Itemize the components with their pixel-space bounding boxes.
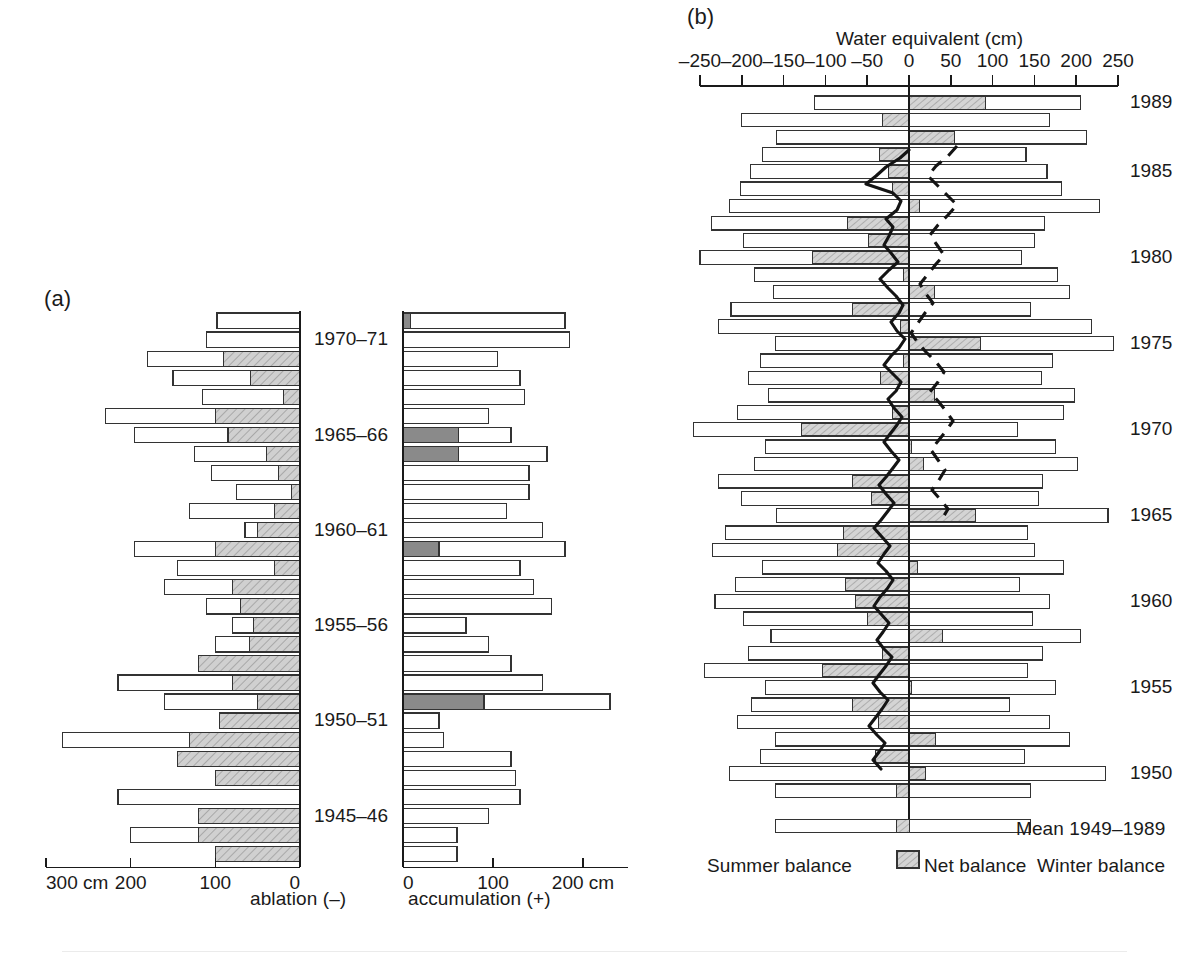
net-balance-band [909,767,926,779]
ablation-bar-hatched [215,770,300,785]
panel-b-row [715,595,1049,609]
ablation-bar-hatched [190,732,300,747]
panel-b-row [754,268,1057,282]
panel-b-row [777,130,1086,144]
accumulation-bar-open [403,713,439,728]
net-balance-band [888,165,909,177]
net-balance-band [896,785,909,797]
ablation-bar-hatched [228,427,300,442]
panel-b-tick-label: 0 [904,50,915,71]
ablation-bar-hatched [258,523,300,538]
net-balance-band [838,544,909,556]
accumulation-bar-open [439,542,565,557]
panel-b-row [729,199,1099,213]
accumulation-bar-open [459,446,547,461]
panel-b-row [760,750,1024,764]
ablation-bar-hatched [224,351,300,366]
net-balance-band [909,200,920,212]
legend-summer-label: Summer balance [707,855,852,877]
panel-b-tick-label: 250 [1102,50,1134,71]
accumulation-bar-open [403,846,457,861]
panel-b-row [740,182,1061,196]
ablation-bar-open [118,675,232,690]
net-balance-band [845,578,909,590]
legend-winter-label: Winter balance [1037,855,1165,877]
accumulation-bar-open [403,561,520,576]
panel-a-left-tick-label: 100 [199,872,231,893]
panel-b-row [760,354,1053,368]
ablation-bar-hatched [283,389,300,404]
ablation-bar-open [177,561,274,576]
ablation-bar-hatched [275,561,300,576]
panel-b-tag: (b) [687,4,714,30]
panel-a-row [105,408,488,423]
panel-a-year-label: 1965–66 [314,424,388,445]
panel-a-year-label: 1960–61 [314,519,388,540]
ablation-bar-hatched [220,713,300,728]
ablation-bar-open [118,789,300,804]
panel-b-row [754,457,1078,471]
accumulation-bar-open [403,789,520,804]
ablation-bar-hatched [253,618,300,633]
panel-b-row [765,440,1055,454]
accumulation-bar-open [403,580,534,595]
net-balance-band [878,716,909,728]
ablation-bar-open [190,504,275,519]
accumulation-bar-open [403,504,507,519]
accumulation-bar-solid [403,446,459,461]
panel-b-row [771,629,1080,643]
panel-b-year-label: 1950 [1130,762,1172,783]
panel-a-right-axis-title: accumulation (+) [408,888,551,910]
ablation-bar-hatched [215,846,300,861]
panel-b-row [777,509,1108,523]
ablation-bar-open [63,732,190,747]
figure-caption-clipped [62,951,1127,952]
accumulation-bar-open [403,523,543,538]
ablation-bar-hatched [215,408,300,423]
panel-b-axis-title: Water equivalent (cm) [836,28,1023,50]
panel-b-row [775,784,1030,798]
figure-canvas: 300 cm20010000100200 cm1970–711965–66196… [0,0,1190,954]
ablation-bar-hatched [251,370,300,385]
accumulation-bar-open [403,370,520,385]
ablation-bar-open [215,637,249,652]
ablation-bar-open [194,446,266,461]
accumulation-bar-open [403,656,511,671]
ablation-bar-hatched [215,542,300,557]
panel-b-row [769,388,1075,402]
net-balance-band [909,337,980,349]
accumulation-bar-open [403,637,489,652]
panel-b-tick-label: 200 [1060,50,1092,71]
accumulation-bar-open [410,313,565,328]
accumulation-bar-solid [403,313,410,328]
panel-b-row [704,664,1028,678]
figure-root: 300 cm20010000100200 cm1970–711965–66196… [0,0,1190,954]
panel-b-row [731,302,1030,316]
ablation-bar-hatched [279,465,300,480]
ablation-bar-hatched [275,504,300,519]
accumulation-bar-open [403,675,543,690]
net-balance-band [909,509,976,521]
panel-b-row [735,578,1019,592]
panel-a-tag: (a) [44,286,71,312]
net-balance-band [901,320,909,332]
panel-b-row [738,715,1050,729]
panel-a-year-label: 1945–46 [314,805,388,826]
net-balance-band [882,114,909,126]
net-balance-band [909,458,923,470]
panel-a-right-tick-label: 200 cm [552,872,614,893]
panel-b-year-label: 1965 [1130,504,1172,525]
panel-a-year-label: 1955–56 [314,614,388,635]
accumulation-bar-open [403,618,466,633]
ablation-bar-hatched [198,827,300,842]
panel-b-row [742,113,1050,127]
panel-b-row [712,216,1045,230]
ablation-bar-open [148,351,224,366]
panel-b-year-label: 1975 [1130,332,1172,353]
net-balance-band [909,561,917,573]
accumulation-bar-open [403,408,489,423]
accumulation-bar-open [403,770,516,785]
panel-a-row [131,827,457,842]
ablation-bar-hatched [292,484,300,499]
panel-b-year-label: 1989 [1130,91,1172,112]
